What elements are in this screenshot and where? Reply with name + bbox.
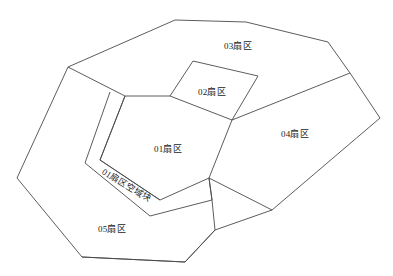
sector-partition-diagram: 03扇区 02扇区 04扇区 01扇区 01扇区空域块 05扇区 bbox=[0, 0, 393, 276]
diagram-background bbox=[0, 0, 393, 276]
sector-04-label: 04扇区 bbox=[281, 128, 309, 139]
sector-01-label: 01扇区 bbox=[154, 143, 182, 154]
sector-05-label: 05扇区 bbox=[98, 223, 126, 234]
sector-02-label: 02扇区 bbox=[198, 86, 226, 97]
sector-03-label: 03扇区 bbox=[224, 40, 252, 51]
